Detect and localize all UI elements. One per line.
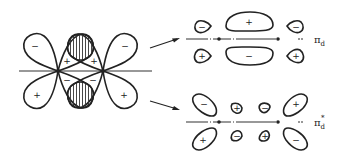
pi-antibonding-sign-outer-right-top: +: [292, 99, 300, 109]
sign-left-bottom: +: [33, 90, 41, 100]
pi-bonding-sign-right-bottom: +: [292, 51, 300, 61]
orbital-diagram: − + − + + + − − + − − + − + πd: [0, 0, 341, 164]
pi-bonding-sign-left-top: −: [198, 22, 206, 32]
pi-antibonding-diagram: − + + − + − − + πd*: [186, 94, 326, 150]
left-nucleus: [56, 69, 60, 73]
pi-antibonding-sign-inner-right-top: −: [261, 103, 269, 113]
pi-antibonding-sign-inner-left-top: +: [233, 103, 241, 113]
right-atom-lobe-top-right: [103, 34, 137, 71]
arrow-to-pi-antibonding: [150, 101, 177, 109]
left-atom-lobe-bottom-left: [24, 71, 58, 108]
pi-bonding-nucleus-right: [276, 37, 280, 41]
pi-bonding-diagram: + − − + − + πd: [186, 12, 326, 65]
right-nucleus: [101, 69, 105, 73]
pi-antibonding-label: πd*: [314, 114, 326, 131]
pi-bonding-nucleus-left: [217, 37, 221, 41]
left-atom-lobe-top-left: [24, 34, 58, 71]
pi-antibonding-sign-inner-right-bottom: +: [261, 131, 269, 141]
left-overlap-diagram: − + − + + + − −: [19, 34, 152, 109]
pi-antibonding-sign-outer-left-bottom: +: [199, 135, 207, 145]
sign-center-lower-left: −: [63, 75, 71, 85]
arrowhead-top-icon: [172, 38, 180, 43]
pi-bonding-sign-center-bottom: −: [245, 51, 253, 61]
sign-right-top: −: [121, 41, 129, 51]
pi-antibonding-sign-outer-left-top: −: [200, 99, 208, 109]
sign-right-bottom: +: [120, 90, 128, 100]
sign-center-upper-right: +: [90, 56, 98, 66]
pi-antibonding-nucleus-right: [276, 120, 280, 124]
pi-antibonding-sign-inner-left-bottom: −: [233, 131, 241, 141]
pi-antibonding-sign-outer-right-bottom: −: [292, 135, 300, 145]
arrowhead-bottom-icon: [172, 106, 180, 110]
pi-bonding-sign-right-top: −: [292, 22, 300, 32]
pi-bonding-sign-center-top: +: [245, 17, 253, 27]
pi-antibonding-nucleus-left: [217, 120, 221, 124]
sign-center-upper-left: +: [63, 56, 71, 66]
sign-left-top: −: [31, 41, 39, 51]
pi-bonding-label: πd: [314, 34, 326, 48]
sign-center-lower-right: −: [89, 75, 97, 85]
pi-bonding-sign-left-bottom: +: [198, 51, 206, 61]
hatched-overlap-bottom: [68, 82, 94, 108]
arrows: [150, 38, 180, 110]
